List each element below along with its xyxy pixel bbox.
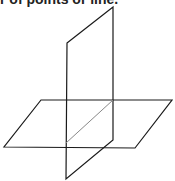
intersection-line — [66, 100, 113, 143]
vertical-plane — [66, 7, 113, 179]
horizontal-plane — [4, 100, 172, 148]
intersecting-planes-diagram — [0, 0, 175, 181]
